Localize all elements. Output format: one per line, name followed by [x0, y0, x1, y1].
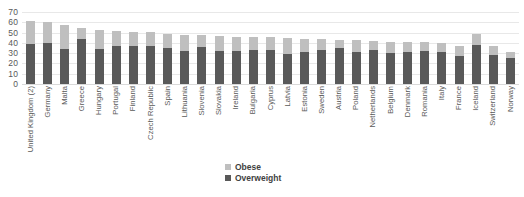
legend-item[interactable]: Obese: [225, 163, 299, 172]
bar-stack[interactable]: [437, 43, 446, 84]
bar-segment-overweight[interactable]: [95, 49, 104, 84]
bar-group[interactable]: [365, 12, 382, 84]
bar-stack[interactable]: [352, 40, 361, 84]
bar-stack[interactable]: [26, 21, 35, 84]
bar-group[interactable]: [125, 12, 142, 84]
bar-segment-overweight[interactable]: [369, 50, 378, 84]
bar-segment-overweight[interactable]: [455, 56, 464, 84]
bar-segment-obese[interactable]: [386, 42, 395, 53]
bar-group[interactable]: [382, 12, 399, 84]
bar-stack[interactable]: [77, 28, 86, 84]
bar-group[interactable]: [73, 12, 90, 84]
bar-segment-obese[interactable]: [489, 46, 498, 54]
bar-stack[interactable]: [317, 39, 326, 84]
bar-stack[interactable]: [369, 41, 378, 84]
legend-item[interactable]: Overweight: [225, 174, 299, 183]
bar-segment-obese[interactable]: [437, 43, 446, 52]
bar-segment-overweight[interactable]: [249, 50, 258, 84]
bar-group[interactable]: [142, 12, 159, 84]
bar-group[interactable]: [331, 12, 348, 84]
bar-segment-obese[interactable]: [77, 28, 86, 39]
bar-segment-overweight[interactable]: [232, 51, 241, 84]
bar-stack[interactable]: [112, 31, 121, 84]
bar-group[interactable]: [193, 12, 210, 84]
bar-segment-overweight[interactable]: [163, 48, 172, 85]
bar-stack[interactable]: [197, 35, 206, 84]
bar-segment-obese[interactable]: [95, 30, 104, 49]
bar-segment-obese[interactable]: [335, 40, 344, 48]
bar-segment-overweight[interactable]: [472, 45, 481, 84]
bar-stack[interactable]: [129, 32, 138, 84]
bar-segment-obese[interactable]: [232, 37, 241, 51]
bar-segment-obese[interactable]: [283, 38, 292, 54]
bar-group[interactable]: [245, 12, 262, 84]
bar-group[interactable]: [211, 12, 228, 84]
bar-stack[interactable]: [232, 37, 241, 84]
bar-segment-obese[interactable]: [317, 39, 326, 49]
bar-segment-obese[interactable]: [180, 35, 189, 51]
bar-stack[interactable]: [506, 52, 515, 84]
bar-segment-obese[interactable]: [112, 31, 121, 46]
bar-segment-obese[interactable]: [26, 21, 35, 44]
bar-segment-overweight[interactable]: [283, 54, 292, 84]
bar-stack[interactable]: [455, 46, 464, 84]
bar-segment-obese[interactable]: [249, 37, 258, 50]
bar-group[interactable]: [91, 12, 108, 84]
bar-stack[interactable]: [215, 36, 224, 84]
bar-segment-overweight[interactable]: [197, 47, 206, 84]
bar-segment-overweight[interactable]: [506, 58, 515, 84]
bar-group[interactable]: [39, 12, 56, 84]
bar-segment-overweight[interactable]: [112, 46, 121, 84]
bar-stack[interactable]: [163, 34, 172, 84]
bar-segment-obese[interactable]: [163, 34, 172, 47]
bar-segment-obese[interactable]: [129, 32, 138, 47]
bar-stack[interactable]: [43, 22, 52, 84]
bar-group[interactable]: [433, 12, 450, 84]
bar-stack[interactable]: [283, 38, 292, 84]
bar-group[interactable]: [22, 12, 39, 84]
bar-segment-obese[interactable]: [369, 41, 378, 50]
bar-segment-overweight[interactable]: [317, 50, 326, 84]
bar-stack[interactable]: [300, 39, 309, 84]
bar-segment-overweight[interactable]: [300, 52, 309, 84]
bar-segment-obese[interactable]: [455, 46, 464, 56]
bar-segment-overweight[interactable]: [146, 46, 155, 84]
bar-segment-obese[interactable]: [420, 42, 429, 51]
bar-stack[interactable]: [266, 37, 275, 84]
bar-segment-overweight[interactable]: [26, 44, 35, 84]
bar-segment-overweight[interactable]: [437, 52, 446, 84]
bar-stack[interactable]: [249, 37, 258, 84]
bar-stack[interactable]: [472, 34, 481, 84]
bar-group[interactable]: [502, 12, 519, 84]
bar-group[interactable]: [262, 12, 279, 84]
bar-stack[interactable]: [335, 40, 344, 84]
bar-segment-obese[interactable]: [215, 36, 224, 51]
bar-segment-obese[interactable]: [472, 34, 481, 45]
bar-segment-obese[interactable]: [197, 35, 206, 47]
bar-group[interactable]: [108, 12, 125, 84]
bar-group[interactable]: [451, 12, 468, 84]
bar-stack[interactable]: [403, 42, 412, 84]
bar-segment-overweight[interactable]: [129, 46, 138, 84]
bar-segment-overweight[interactable]: [489, 55, 498, 84]
bar-group[interactable]: [228, 12, 245, 84]
bar-group[interactable]: [296, 12, 313, 84]
bar-stack[interactable]: [95, 30, 104, 84]
bar-segment-overweight[interactable]: [335, 48, 344, 84]
bar-segment-obese[interactable]: [300, 39, 309, 52]
bar-segment-overweight[interactable]: [77, 39, 86, 84]
bar-group[interactable]: [348, 12, 365, 84]
bar-segment-overweight[interactable]: [420, 51, 429, 84]
bar-group[interactable]: [279, 12, 296, 84]
bar-group[interactable]: [416, 12, 433, 84]
bar-group[interactable]: [468, 12, 485, 84]
bar-stack[interactable]: [146, 32, 155, 84]
bar-segment-overweight[interactable]: [60, 49, 69, 84]
bar-segment-obese[interactable]: [403, 42, 412, 52]
bar-stack[interactable]: [180, 35, 189, 84]
bar-group[interactable]: [159, 12, 176, 84]
bar-segment-obese[interactable]: [266, 37, 275, 50]
bar-segment-overweight[interactable]: [352, 52, 361, 84]
bar-segment-obese[interactable]: [60, 25, 69, 49]
bar-group[interactable]: [485, 12, 502, 84]
